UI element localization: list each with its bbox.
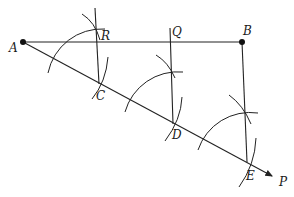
label-q: Q — [172, 25, 182, 39]
label-r: R — [100, 29, 110, 43]
label-d: D — [171, 128, 182, 142]
label-e: E — [245, 169, 255, 183]
label-c: C — [96, 89, 105, 103]
ray-ap — [23, 42, 272, 176]
line-cr — [95, 8, 99, 84]
construction-diagram: A R Q B C D E P — [0, 0, 294, 197]
point-a — [20, 39, 26, 45]
arc-near-r — [82, 14, 100, 40]
label-p: P — [278, 175, 288, 189]
point-b — [239, 39, 245, 45]
segment-be — [242, 42, 247, 162]
label-b: B — [242, 24, 252, 38]
label-a: A — [8, 41, 18, 55]
arc-center-d — [198, 112, 258, 150]
arc-near-be — [229, 95, 251, 124]
arc-near-q — [156, 55, 175, 78]
arc-center-c — [125, 72, 183, 112]
